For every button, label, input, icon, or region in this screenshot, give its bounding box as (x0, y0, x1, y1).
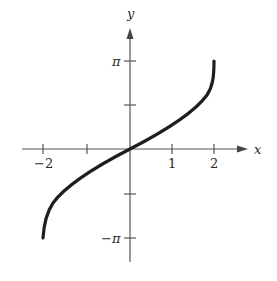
x-tick-label-neg-2: −2 (34, 156, 53, 171)
x-tick-label-2: 2 (210, 156, 218, 171)
x-axis-arrow-icon (237, 146, 248, 153)
y-axis-arrow-icon (127, 28, 134, 39)
plot: y x π −π −2 1 2 (0, 0, 277, 281)
y-tick-label-pi: π (111, 54, 121, 69)
y-tick-label-neg-pi: −π (101, 231, 121, 246)
x-axis-label: x (254, 142, 262, 157)
x-tick-label-1: 1 (168, 156, 176, 171)
y-axis-label: y (126, 6, 135, 21)
